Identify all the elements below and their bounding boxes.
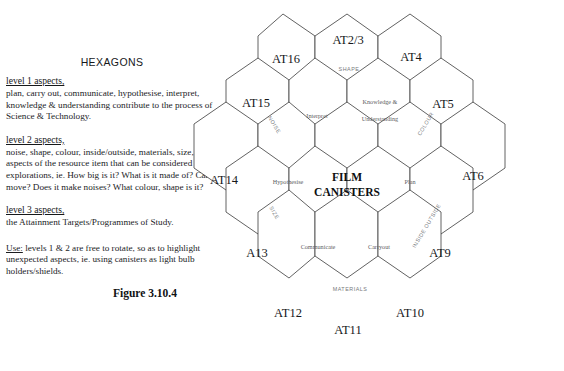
hexagon-label-plan: Plan [404, 178, 415, 185]
hexagon-label-at2-3: AT2/3 [332, 33, 363, 47]
use-note-text: levels 1 & 2 are free to rotate, so as t… [6, 243, 200, 276]
hexagon-label-communicate: Communicate [301, 243, 336, 250]
hexagon-label-interpret: Interpret [306, 112, 328, 119]
hexagon-label-a13: A13 [246, 246, 268, 260]
edge-label-shape: SHAPE [339, 66, 360, 72]
hexagon-label-carryout: Carryout [368, 243, 390, 250]
hexagon-center-label-line1: FILM [332, 171, 362, 183]
hexagon-label-at11: AT11 [334, 323, 361, 337]
hexagon-label-at15: AT15 [242, 96, 270, 110]
hexagon-label-at5: AT5 [432, 97, 454, 111]
hexagon-label-at6: AT6 [462, 169, 484, 183]
use-note-label: Use: [6, 243, 23, 253]
hexagon-label-hypothesise: Hypothesise [273, 178, 304, 185]
hexagon-label-at14: AT14 [210, 173, 239, 187]
hexagon-label-knowledge: Knowledge & [363, 98, 398, 105]
hexagon-diagram: AT16 AT2/3 AT4 AT15 AT5 AT14 AT6 A13 AT9… [178, 0, 564, 371]
edge-label-materials: MATERIALS [333, 286, 368, 292]
figure-page: HEXAGONS level 1 aspects, plan, carry ou… [0, 0, 564, 371]
hexagon-label-at4: AT4 [400, 50, 422, 64]
hexagon-label-understanding: Understanding [362, 115, 398, 122]
hexagon-center-label-line2: CANISTERS [314, 186, 380, 198]
hexagon-label-at12: AT12 [274, 306, 302, 320]
figure-caption: Figure 3.10.4 [113, 287, 177, 299]
hexagon-label-at10: AT10 [396, 306, 424, 320]
hexagon-label-at16: AT16 [272, 52, 300, 66]
hexagon-label-at9: AT9 [429, 246, 451, 260]
